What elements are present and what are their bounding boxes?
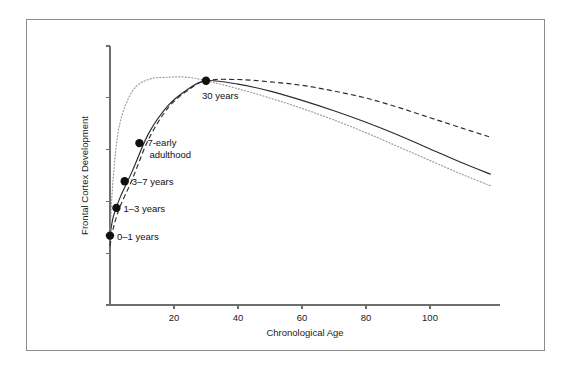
label-stage-3-7-years: 3–7 years xyxy=(132,176,174,187)
figure-canvas: 20406080100Chronological AgeFrontal Cort… xyxy=(0,0,568,368)
label-stage-7-early-adulthood: 7-early xyxy=(147,137,176,148)
marker-stage-30-years xyxy=(202,77,210,85)
x-tick-label-80: 80 xyxy=(361,312,372,323)
label-stage-30-years: 30 years xyxy=(202,90,239,101)
y-tick-group xyxy=(106,46,110,305)
x-tick-label-40: 40 xyxy=(233,312,244,323)
label-stage-7-early-adulthood-line2: adulthood xyxy=(149,149,191,160)
marker-stage-7-early-adulthood xyxy=(135,139,143,147)
marker-stage-0-1-years xyxy=(106,231,114,239)
curves-group xyxy=(110,77,491,246)
x-axis-title: Chronological Age xyxy=(266,327,343,338)
x-tick-label-100: 100 xyxy=(422,312,438,323)
x-tick-label-60: 60 xyxy=(297,312,308,323)
label-stage-0-1-years: 0–1 years xyxy=(117,231,159,242)
marker-stage-1-3-years xyxy=(112,204,120,212)
line-chart: 20406080100Chronological AgeFrontal Cort… xyxy=(0,0,568,368)
x-tick-label-20: 20 xyxy=(169,312,180,323)
x-tick-group: 20406080100 xyxy=(169,305,438,323)
y-axis-title: Frontal Cortex Development xyxy=(79,116,90,235)
label-stage-1-3-years: 1–3 years xyxy=(123,203,165,214)
marker-stage-3-7-years xyxy=(121,177,129,185)
